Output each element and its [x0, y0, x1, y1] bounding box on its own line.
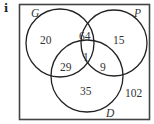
- region-outside: 102: [125, 87, 143, 99]
- region-d-only: 35: [80, 85, 92, 97]
- set-g-label: G: [31, 7, 40, 19]
- region-g-d-only: 29: [60, 61, 72, 73]
- region-g-p-only: 64: [79, 30, 91, 42]
- venn-diagram: G P D 20 64 15 1 29 9 35 102: [0, 0, 154, 124]
- set-d-label: D: [105, 107, 115, 119]
- region-g-only: 20: [40, 34, 52, 46]
- region-p-only: 15: [113, 34, 125, 46]
- region-g-p-d: 1: [83, 51, 89, 63]
- region-p-d-only: 9: [100, 61, 106, 73]
- set-p-label: P: [133, 7, 141, 19]
